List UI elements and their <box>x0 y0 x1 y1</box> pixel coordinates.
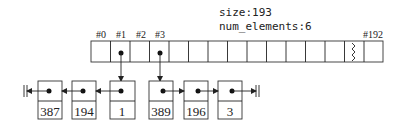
node-value: 196 <box>186 104 206 119</box>
node-value: 387 <box>40 104 60 119</box>
index-label-192: #192 <box>363 29 383 40</box>
null-terminator-right <box>256 85 259 97</box>
node-value: 389 <box>151 104 171 119</box>
size-label: size:193 <box>219 6 272 19</box>
list-node-1: 1 <box>110 81 135 119</box>
node-value: 3 <box>227 104 234 119</box>
list-node-387: 387 <box>38 81 62 119</box>
num-elements-label: num_elements:6 <box>219 20 312 33</box>
index-label-0: #0 <box>96 29 106 40</box>
bucket-array <box>91 41 383 62</box>
list-node-194: 194 <box>72 81 96 119</box>
hash-table-diagram: size:193 num_elements:6 #0 #1 #2 #3 #192 <box>0 0 403 133</box>
node-value: 194 <box>74 104 94 119</box>
list-node-196: 196 <box>184 81 208 119</box>
index-label-2: #2 <box>136 29 146 40</box>
list-node-3: 3 <box>218 81 242 119</box>
index-label-3: #3 <box>155 29 165 40</box>
node-value: 1 <box>119 104 126 119</box>
null-terminator-left <box>24 85 27 97</box>
index-label-1: #1 <box>116 29 126 40</box>
list-node-389: 389 <box>149 81 173 119</box>
